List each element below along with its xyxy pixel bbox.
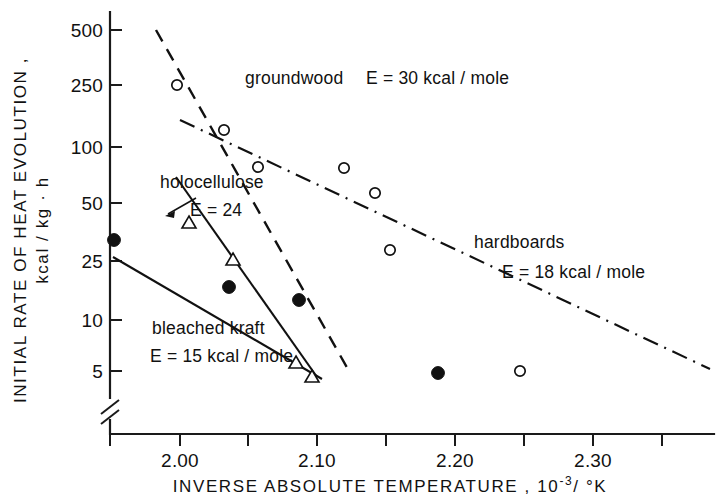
x-axis-title-main: INVERSE ABSOLUTE TEMPERATURE , 10 xyxy=(173,477,560,496)
y-tick-label: 250 xyxy=(71,75,103,96)
y-tick-label: 10 xyxy=(81,310,103,331)
holocellulose-energy-label: E = 24 xyxy=(190,200,242,220)
data-point xyxy=(370,188,380,198)
x-tick-label: 2.20 xyxy=(436,450,474,471)
x-tick-label: 2.10 xyxy=(298,450,336,471)
data-point xyxy=(108,234,121,247)
x-tick-label: 2.30 xyxy=(574,450,612,471)
y-axis-title-line2: kcal / kg · h xyxy=(33,176,52,284)
y-axis-title-line1: INITIAL RATE OF HEAT EVOLUTION , xyxy=(11,57,30,403)
svg-text:INVERSE ABSOLUTE TEMPERATURE: INVERSE ABSOLUTE TEMPERATURE , 10-3/ °K xyxy=(173,474,607,496)
y-tick-label: 5 xyxy=(92,361,103,382)
data-point xyxy=(253,162,263,172)
data-point xyxy=(226,253,240,265)
groundwood-label: groundwood xyxy=(245,68,343,88)
groundwood-energy-label: E = 30 kcal / mole xyxy=(366,68,509,88)
y-tick-label: 50 xyxy=(81,193,103,214)
x-axis-tick-labels: 2.00 2.10 2.20 2.30 xyxy=(161,450,612,471)
x-axis-title-tail: / °K xyxy=(573,477,607,496)
data-point xyxy=(515,366,525,376)
y-axis-ticks xyxy=(110,30,122,371)
holocellulose-annotation: holocellulose E = 24 xyxy=(160,172,264,220)
x-axis-ticks xyxy=(110,434,662,446)
data-point xyxy=(172,80,182,90)
y-axis-tick-labels: 500 250 100 50 25 10 5 xyxy=(71,20,103,382)
data-point xyxy=(385,245,395,255)
chart-figure: 500 250 100 50 25 10 5 2.00 2.10 2.20 2.… xyxy=(0,0,724,500)
bleached-kraft-annotation: bleached kraft E = 15 kcal / mole xyxy=(150,318,293,366)
chart-canvas: 500 250 100 50 25 10 5 2.00 2.10 2.20 2.… xyxy=(0,0,724,500)
bleached-kraft-label: bleached kraft xyxy=(152,318,265,338)
data-point xyxy=(223,281,236,294)
y-tick-label: 25 xyxy=(81,251,103,272)
data-point xyxy=(432,367,445,380)
data-point xyxy=(339,163,349,173)
x-axis-line xyxy=(110,420,714,434)
data-point xyxy=(219,125,229,135)
x-tick-label: 2.00 xyxy=(161,450,199,471)
y-tick-label: 100 xyxy=(71,137,103,158)
hardboards-energy-label: E = 18 kcal / mole xyxy=(502,262,645,282)
y-axis-title: INITIAL RATE OF HEAT EVOLUTION , kcal / … xyxy=(11,57,52,403)
y-tick-label: 500 xyxy=(71,20,103,41)
bleached-kraft-energy-label: E = 15 kcal / mole xyxy=(150,346,293,366)
data-point xyxy=(293,294,306,307)
hardboards-annotation: hardboards E = 18 kcal / mole xyxy=(474,232,645,282)
x-axis-title: INVERSE ABSOLUTE TEMPERATURE , 10-3/ °K xyxy=(173,474,607,496)
x-axis-title-exponent: -3 xyxy=(559,474,573,488)
holocellulose-label: holocellulose xyxy=(160,172,264,192)
groundwood-annotation: groundwood E = 30 kcal / mole xyxy=(245,68,509,88)
hardboards-label: hardboards xyxy=(474,232,565,252)
